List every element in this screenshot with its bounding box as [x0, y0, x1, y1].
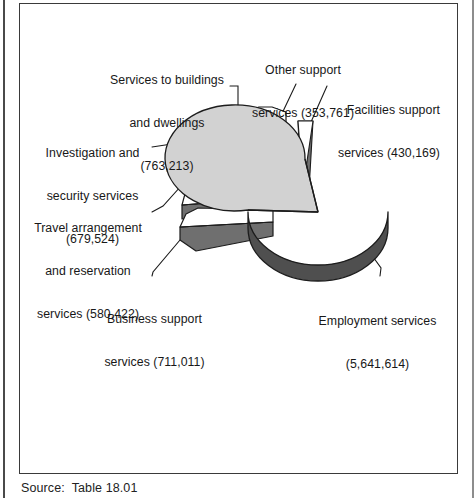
pie-label-business-support-line2: services (711,011): [88, 355, 221, 369]
leader-line-business-support: [152, 240, 180, 276]
pie-label-facilities-support-line2: services (430,169): [298, 146, 440, 160]
pie-label-employment-services: Employment services (5,641,614): [305, 285, 450, 400]
pie-label-employment-services-line1: Employment services: [305, 314, 450, 328]
pie-label-services-buildings-line1: Services to buildings: [97, 73, 237, 87]
pie-label-business-support: Business support services (711,011): [88, 283, 221, 398]
source-note: Source: Table 18.01: [21, 481, 137, 495]
pie-label-investigation-security-line1: Investigation and: [30, 146, 155, 160]
figure-page: Services to buildings and dwellings (763…: [0, 0, 476, 498]
pie-label-business-support-line1: Business support: [88, 312, 221, 326]
pie-label-facilities-support: Facilities support services (430,169): [298, 74, 440, 189]
pie-label-travel-arrangement-line2: and reservation: [24, 264, 152, 278]
pie-label-facilities-support-line1: Facilities support: [298, 103, 440, 117]
pie-label-travel-arrangement-line1: Travel arrangement: [24, 221, 152, 235]
pie-label-employment-services-line2: (5,641,614): [305, 357, 450, 371]
